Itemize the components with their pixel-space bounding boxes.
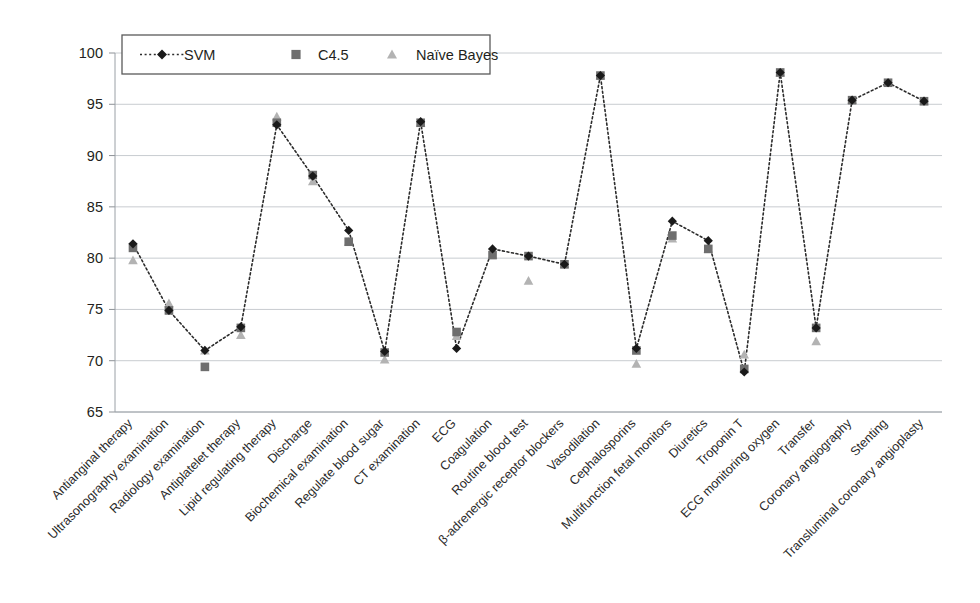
x-axis-category-labels-group: Antianginal therapyUltrasonography exami… bbox=[45, 416, 926, 562]
data-point-c4-5 bbox=[344, 237, 353, 246]
data-point-c4-5 bbox=[668, 231, 677, 240]
chart-canvas: 65707580859095100 Antianginal therapyUlt… bbox=[0, 0, 980, 603]
data-point-c4-5 bbox=[452, 328, 461, 337]
x-axis-category-label: CT examination bbox=[351, 416, 423, 488]
data-point-na-ve-bayes bbox=[811, 336, 821, 345]
y-tick-label: 95 bbox=[87, 96, 103, 112]
data-point-na-ve-bayes bbox=[739, 350, 749, 359]
legend-label-na-ve-bayes: Naïve Bayes bbox=[416, 47, 498, 63]
x-axis-category-label: ECG bbox=[430, 416, 459, 445]
y-tick-label: 90 bbox=[87, 148, 103, 164]
series-markers-group bbox=[128, 68, 929, 377]
data-point-c4-5 bbox=[704, 245, 713, 254]
legend-marker-c4-5 bbox=[291, 50, 300, 59]
series-lines-group bbox=[133, 72, 924, 372]
y-tick-label: 85 bbox=[87, 199, 103, 215]
data-point-svm bbox=[668, 217, 677, 226]
y-axis-ticks-group: 65707580859095100 bbox=[79, 45, 115, 420]
gridlines-group bbox=[115, 53, 942, 412]
data-point-na-ve-bayes bbox=[128, 255, 138, 264]
y-tick-label: 75 bbox=[87, 301, 103, 317]
y-tick-label: 65 bbox=[87, 404, 103, 420]
series-line-svm bbox=[133, 72, 924, 372]
data-point-c4-5 bbox=[201, 363, 210, 372]
data-point-svm bbox=[452, 344, 461, 353]
legend-group: SVMC4.5Naïve Bayes bbox=[122, 35, 498, 74]
y-tick-label: 80 bbox=[87, 250, 103, 266]
y-tick-label: 70 bbox=[87, 353, 103, 369]
legend-label-svm: SVM bbox=[184, 47, 215, 63]
data-point-na-ve-bayes bbox=[524, 276, 534, 285]
precision-line-chart: Precision (%) 65707580859095100 Antiangi… bbox=[0, 0, 980, 603]
x-axis-line-group bbox=[115, 53, 942, 412]
data-point-svm bbox=[704, 236, 713, 245]
legend-label-c4-5: C4.5 bbox=[318, 47, 349, 63]
y-tick-label: 100 bbox=[79, 45, 103, 61]
data-point-svm bbox=[344, 226, 353, 235]
